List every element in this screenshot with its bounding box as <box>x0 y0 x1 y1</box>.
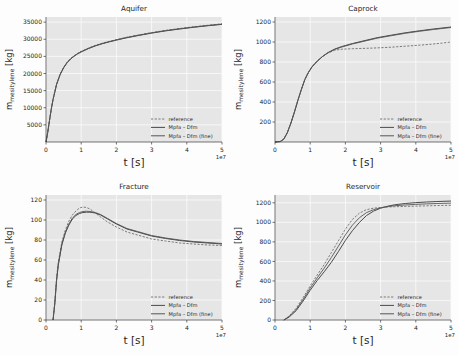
legend-label-2: Mpfa – Dfm <box>398 302 427 309</box>
y-axis-label: mmesitylene [kg] <box>4 49 16 110</box>
y-axis-ticks: 020406080100120 <box>31 196 46 323</box>
svg-text:80: 80 <box>34 236 42 243</box>
svg-text:5: 5 <box>449 146 453 153</box>
y-axis-label: mmesitylene [kg] <box>233 49 245 110</box>
svg-text:600: 600 <box>260 258 272 265</box>
svg-text:2: 2 <box>343 146 347 153</box>
y-axis-label: mmesitylene [kg] <box>4 227 16 288</box>
x-axis-exponent: 1e7 <box>445 154 455 160</box>
svg-text:0: 0 <box>273 146 277 153</box>
x-axis-label: t [s] <box>352 156 373 168</box>
svg-text:3: 3 <box>379 146 383 153</box>
svg-text:200: 200 <box>260 118 272 125</box>
x-axis-ticks: 012345 <box>273 320 453 331</box>
subplot-aquifer: Aquifer012345500010000150002000025000300… <box>0 0 229 178</box>
svg-text:60: 60 <box>34 256 42 263</box>
svg-text:0: 0 <box>44 146 48 153</box>
svg-text:5: 5 <box>449 324 453 331</box>
svg-text:1200: 1200 <box>256 199 271 206</box>
svg-text:35000: 35000 <box>23 18 42 25</box>
svg-text:4: 4 <box>185 146 189 153</box>
svg-text:2: 2 <box>114 324 118 331</box>
legend-label-2: Mpfa – Dfm <box>169 302 198 309</box>
svg-text:0: 0 <box>38 316 42 323</box>
legend-label-2: Mpfa – Dfm <box>169 124 198 131</box>
svg-text:20000: 20000 <box>23 70 42 77</box>
svg-text:20: 20 <box>34 296 42 303</box>
x-axis-ticks: 012345 <box>273 142 453 153</box>
svg-text:25000: 25000 <box>23 52 42 59</box>
svg-text:15000: 15000 <box>23 87 42 94</box>
svg-text:400: 400 <box>260 98 272 105</box>
legend-label-1: reference <box>169 116 193 122</box>
svg-text:1000: 1000 <box>256 38 271 45</box>
svg-text:120: 120 <box>31 196 43 203</box>
svg-text:1: 1 <box>308 146 312 153</box>
svg-text:400: 400 <box>260 277 272 284</box>
svg-text:800: 800 <box>260 238 272 245</box>
svg-text:2: 2 <box>343 324 347 331</box>
svg-text:4: 4 <box>414 324 418 331</box>
legend-label-1: reference <box>398 294 422 300</box>
subplot-reservoir: Reservoir012345020040060080010001200t [s… <box>229 178 458 356</box>
y-axis-ticks: 5000100001500020000250003000035000 <box>23 18 46 128</box>
svg-text:100: 100 <box>31 216 43 223</box>
legend-label-3: Mpfa – Dfm (fine) <box>169 311 213 318</box>
subplot-title: Reservoir <box>346 182 380 191</box>
x-axis-label: t [s] <box>123 156 144 168</box>
plot-area-background <box>46 195 222 320</box>
svg-text:5: 5 <box>220 324 224 331</box>
svg-text:4: 4 <box>185 324 189 331</box>
x-axis-exponent: 1e7 <box>445 332 455 338</box>
svg-text:1200: 1200 <box>256 18 271 25</box>
svg-text:5000: 5000 <box>27 121 42 128</box>
svg-text:10000: 10000 <box>23 104 42 111</box>
subplot-title: Aquifer <box>121 4 147 13</box>
svg-text:200: 200 <box>260 297 272 304</box>
y-axis-ticks: 20040060080010001200 <box>256 18 275 125</box>
svg-text:30000: 30000 <box>23 35 42 42</box>
svg-text:40: 40 <box>34 276 42 283</box>
y-axis-ticks: 020040060080010001200 <box>256 199 275 323</box>
legend-label-1: reference <box>398 116 422 122</box>
svg-text:0: 0 <box>267 316 271 323</box>
y-axis-label: mmesitylene [kg] <box>233 227 245 288</box>
svg-text:1000: 1000 <box>256 218 271 225</box>
svg-text:3: 3 <box>379 324 383 331</box>
x-axis-label: t [s] <box>352 334 373 346</box>
svg-text:0: 0 <box>44 324 48 331</box>
svg-text:1: 1 <box>79 146 83 153</box>
x-axis-ticks: 012345 <box>44 320 224 331</box>
x-axis-label: t [s] <box>123 334 144 346</box>
svg-text:600: 600 <box>260 78 272 85</box>
figure-panel: Aquifer012345500010000150002000025000300… <box>0 0 458 356</box>
x-axis-ticks: 012345 <box>44 142 224 153</box>
svg-text:800: 800 <box>260 58 272 65</box>
svg-text:1: 1 <box>308 324 312 331</box>
svg-text:1: 1 <box>79 324 83 331</box>
legend-label-3: Mpfa – Dfm (fine) <box>398 133 442 140</box>
legend-label-1: reference <box>169 294 193 300</box>
svg-text:3: 3 <box>150 146 154 153</box>
legend-label-3: Mpfa – Dfm (fine) <box>398 311 442 318</box>
x-axis-exponent: 1e7 <box>216 332 226 338</box>
subplot-title: Caprock <box>348 4 378 13</box>
plot-area-background <box>275 17 451 142</box>
subplot-fracture: Fracture012345020406080100120t [s]1e7mme… <box>0 178 229 356</box>
legend-label-3: Mpfa – Dfm (fine) <box>169 133 213 140</box>
x-axis-exponent: 1e7 <box>216 154 226 160</box>
subplot-caprock: Caprock01234520040060080010001200t [s]1e… <box>229 0 458 178</box>
legend-label-2: Mpfa – Dfm <box>398 124 427 131</box>
subplot-title: Fracture <box>119 182 149 191</box>
svg-text:4: 4 <box>414 146 418 153</box>
svg-text:5: 5 <box>220 146 224 153</box>
svg-text:3: 3 <box>150 324 154 331</box>
svg-text:2: 2 <box>114 146 118 153</box>
svg-text:0: 0 <box>273 324 277 331</box>
